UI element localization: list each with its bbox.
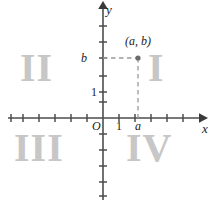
axes-svg	[0, 0, 216, 207]
x-axis-unit-label: 1	[116, 120, 122, 132]
coordinate-plane-figure: II I III IV x y O 1 1 a b (a, b)	[0, 0, 216, 207]
y-axis-label: y	[106, 3, 112, 16]
quadrant-three-label: III	[14, 128, 64, 168]
point-y-coordinate-label: b	[81, 52, 87, 64]
plotted-point	[135, 55, 140, 60]
y-axis-unit-label: 1	[91, 86, 97, 98]
quadrant-two-label: II	[20, 48, 53, 88]
quadrant-one-label: I	[148, 48, 165, 88]
point-x-coordinate-label: a	[135, 120, 141, 132]
x-axis-label: x	[202, 122, 208, 135]
quadrant-four-label: IV	[126, 128, 172, 168]
origin-label: O	[92, 120, 101, 132]
point-coordinate-pair-label: (a, b)	[125, 35, 151, 47]
